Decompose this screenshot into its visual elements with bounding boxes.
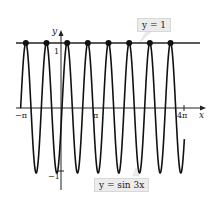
callout-y-equals-1: y = 1 [137, 18, 171, 32]
callout-pointers [0, 0, 216, 200]
callout-sin-3x: y = sin 3x [94, 178, 149, 192]
callout-y-equals-1-text: y = 1 [142, 20, 166, 30]
callout-sin-3x-text: y = sin 3x [99, 180, 144, 190]
